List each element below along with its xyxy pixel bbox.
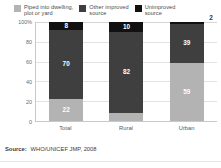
bar-segment-other-improved: 70: [49, 30, 83, 99]
source-note: Source: WHO/UNICEF JMP, 2008: [5, 146, 97, 152]
legend-label-other-improved: Other improved source: [89, 4, 128, 17]
plot-area: 100% 80 60 40 20 0 8 70: [14, 22, 217, 122]
bar-value-label: 22: [63, 107, 70, 113]
grid-area: 8 70 22 10 82: [35, 22, 217, 122]
bar-value-label: 70: [63, 61, 70, 67]
bar-value-label: 82: [123, 69, 130, 75]
bar-segment-other-improved: 82: [109, 32, 143, 113]
bar-segment-unimproved: 8: [49, 22, 83, 30]
legend-label-piped: Piped into dwelling, plot or yard: [24, 4, 73, 17]
bar-segment-unimproved: 10: [109, 22, 143, 32]
bar-segment-other-improved: 39: [170, 24, 204, 63]
legend-label-unimproved: Unimproved source: [145, 4, 176, 17]
legend-swatch-icon-unimproved: [135, 5, 142, 12]
source-text: WHO/UNICEF JMP, 2008: [31, 146, 97, 152]
source-label: Source:: [5, 146, 27, 152]
legend-item-other-improved: Other improved source: [79, 4, 128, 17]
bar-rural: 10 82: [109, 22, 143, 121]
bar-segment-piped: [109, 113, 143, 121]
bar-segment-piped: 59: [170, 63, 204, 121]
legend-item-piped: Piped into dwelling, plot or yard: [14, 4, 73, 17]
bar-urban: 2 39 59: [170, 22, 204, 121]
bar-total: 8 70 22: [49, 22, 83, 121]
legend-swatch-icon-other-improved: [79, 5, 86, 12]
y-tick-label: 80: [26, 39, 32, 45]
legend-item-unimproved: Unimproved source: [135, 4, 176, 17]
bar-value-label: 39: [183, 40, 190, 46]
y-tick-label: 60: [26, 59, 32, 65]
legend-swatch-icon-piped: [14, 5, 21, 12]
y-tick-label: 20: [26, 99, 32, 105]
y-axis: 100% 80 60 40 20 0: [14, 22, 34, 122]
chart-figure: Piped into dwelling, plot or yard Other …: [0, 0, 221, 168]
bar-value-label: 2: [209, 15, 213, 21]
bar-value-label: 8: [64, 23, 68, 29]
x-axis: Total Rural Urban: [35, 122, 217, 131]
y-tick-label: 0: [29, 119, 32, 125]
footer-divider: [0, 161, 221, 162]
bar-group: 8 70 22 10 82: [36, 22, 217, 121]
y-tick-label: 40: [26, 79, 32, 85]
x-tick-label-rural: Rural: [109, 125, 143, 131]
bar-segment-piped: 22: [49, 99, 83, 121]
x-tick-label-total: Total: [48, 125, 82, 131]
x-tick-label-urban: Urban: [170, 125, 204, 131]
bar-value-label: 59: [183, 89, 190, 95]
bar-value-label: 10: [123, 24, 130, 30]
y-tick-label: 100%: [18, 19, 32, 25]
chart-legend: Piped into dwelling, plot or yard Other …: [0, 0, 221, 22]
